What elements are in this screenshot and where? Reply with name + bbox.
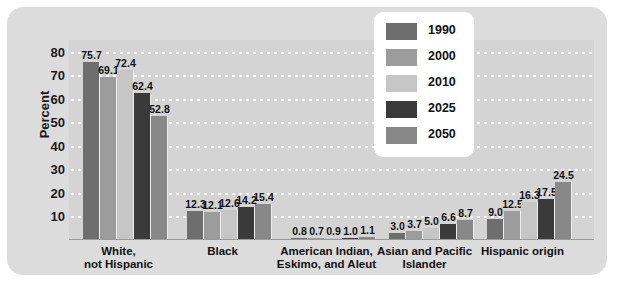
legend-swatch	[386, 49, 417, 66]
bar-group: 12.312.112.614.215.4	[187, 40, 272, 240]
y-axis-tick-label: 20	[31, 185, 65, 200]
bar	[100, 77, 117, 240]
x-axis-category-line: Black	[163, 245, 283, 258]
bar	[487, 219, 504, 240]
x-axis-category-line: Islander	[365, 258, 485, 271]
bar-group: 9.012.516.317.524.5	[487, 40, 572, 240]
legend-label: 2050	[428, 127, 456, 141]
bar-value-label: 75.7	[75, 49, 109, 61]
bar-value-label: 52.8	[143, 103, 177, 115]
legend-item[interactable]: 2050	[386, 124, 474, 150]
y-axis-tick-label: 10	[31, 209, 65, 224]
bar	[521, 202, 538, 240]
bar-value-label: 8.7	[449, 207, 483, 219]
bar	[440, 224, 457, 240]
legend-item[interactable]: 2000	[386, 46, 474, 72]
legend-label: 1990	[428, 23, 456, 37]
bar	[187, 211, 204, 240]
bar	[151, 116, 168, 240]
bar	[238, 207, 255, 240]
x-axis-category-label: Hispanic origin	[463, 245, 583, 258]
bar	[504, 211, 521, 240]
bar-group: 0.80.70.91.01.1	[291, 40, 376, 240]
legend-label: 2000	[428, 49, 456, 63]
bar-value-label: 15.4	[247, 191, 281, 203]
legend-swatch	[386, 127, 417, 144]
bar	[255, 204, 272, 240]
bar-group: 75.769.172.462.452.8	[83, 40, 168, 240]
x-axis-category-label: White,not Hispanic	[59, 245, 179, 271]
bar	[117, 70, 134, 240]
bar	[83, 62, 100, 240]
legend-swatch	[386, 75, 417, 92]
y-axis-tick-label: 80	[31, 44, 65, 59]
plot-area: 75.769.172.462.452.812.312.112.614.215.4…	[69, 40, 594, 240]
legend-label: 2010	[428, 75, 456, 89]
legend-item[interactable]: 2010	[386, 72, 474, 98]
bar	[538, 199, 555, 240]
bar	[555, 182, 572, 240]
bar-value-label: 72.4	[109, 57, 143, 69]
legend-item[interactable]: 2025	[386, 98, 474, 124]
x-axis-category-line: White,	[59, 245, 179, 258]
axis-baseline	[69, 239, 594, 240]
legend-swatch	[386, 23, 417, 40]
legend: 19902000201020252050	[374, 12, 474, 157]
legend-swatch	[386, 101, 417, 118]
bar-value-label: 1.1	[351, 224, 385, 236]
chart-panel: 1020304050607080 Percent 75.769.172.462.…	[7, 7, 607, 275]
y-axis-tick-label: 30	[31, 162, 65, 177]
bar	[204, 212, 221, 240]
x-axis-category-line: not Hispanic	[59, 258, 179, 271]
legend-label: 2025	[428, 101, 456, 115]
legend-item[interactable]: 1990	[386, 20, 474, 46]
bar	[457, 220, 474, 240]
bar-value-label: 62.4	[126, 80, 160, 92]
bar	[134, 93, 151, 240]
x-axis-category-line: Hispanic origin	[463, 245, 583, 258]
y-axis-title: Percent	[37, 70, 52, 160]
bar-value-label: 24.5	[547, 169, 581, 181]
bar	[221, 210, 238, 240]
x-axis-category-label: Black	[163, 245, 283, 258]
